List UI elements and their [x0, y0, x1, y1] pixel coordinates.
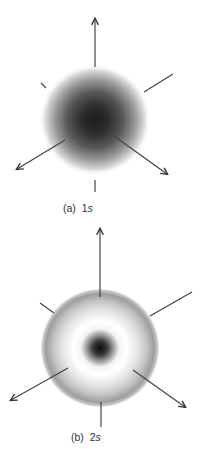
tick-upper-left [41, 83, 46, 88]
caption-prefix: (a) [63, 202, 76, 214]
electron-cloud-2s [40, 288, 160, 408]
panel-1s [17, 19, 173, 192]
caption-2s: (b) 2s [71, 431, 101, 443]
panel-2s [11, 229, 192, 427]
caption-prefix: (b) [71, 431, 84, 443]
orbital-letter: s [96, 431, 101, 443]
caption-1s: (a) 1s [63, 202, 93, 214]
electron-cloud-1s [39, 64, 151, 176]
tick-upper-left [40, 303, 54, 313]
tick-upper-right [144, 74, 173, 92]
orbital-letter: s [88, 202, 93, 214]
tick-upper-right [150, 292, 192, 316]
orbital-diagram [0, 0, 203, 449]
